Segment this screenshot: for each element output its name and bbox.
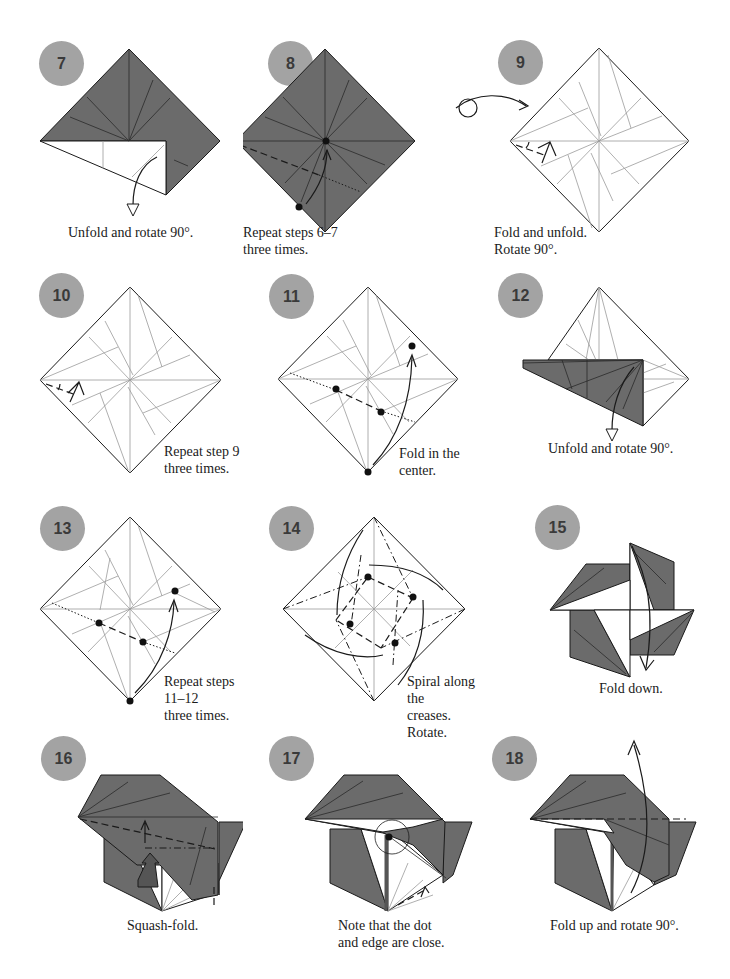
step-14: 14 Spiral along the creases. Rotate. (243, 480, 486, 720)
step-8: 8 Repeat steps 6–7 three times. (243, 0, 486, 240)
step-10: 10 Repeat step 9 three times. (0, 245, 243, 485)
reference-dot (172, 588, 179, 595)
reference-dot (386, 834, 393, 841)
step-12: 12 Unfold and rotate 90°. (486, 245, 729, 485)
reference-dot (409, 343, 416, 350)
step-8-diagram (243, 0, 486, 240)
step-caption: Note that the dot and edge are close. (338, 917, 445, 951)
step-11: 11 Fold in the center. (243, 245, 486, 485)
reference-dot (127, 698, 134, 705)
reference-dot (347, 621, 354, 628)
step-16-diagram (0, 715, 243, 979)
step-7-diagram (0, 0, 243, 240)
reference-dot (365, 469, 372, 476)
step-9-diagram (486, 0, 729, 240)
step-13: 13 Repeat steps 11–12 three times. (0, 480, 243, 720)
reference-dot (410, 594, 417, 601)
step-18: 18 Fold up and rotate 90°. (486, 715, 729, 955)
step-15: 15 Fold down. (486, 480, 729, 720)
step-caption: Repeat step 9 three times. (164, 443, 239, 477)
reference-dot (378, 409, 385, 416)
arrow-head-icon (127, 204, 139, 216)
reference-dot (333, 386, 340, 393)
step-18-diagram (486, 715, 729, 979)
reference-dot (140, 639, 147, 646)
step-9: 9 Fold and unfold. Rotate 90°. (486, 0, 729, 240)
step-caption: Unfold and rotate 90°. (68, 224, 193, 241)
step-caption: Squash-fold. (127, 917, 198, 934)
step-caption: Fold down. (599, 680, 663, 697)
step-16: 16 Squash-fold. (0, 715, 243, 955)
step-7: 7 Unfold and rotate 90°. (0, 0, 243, 240)
reference-dot (323, 138, 330, 145)
reference-dot (96, 620, 103, 627)
step-17: 17 Note that the dot and edge are close. (243, 715, 486, 955)
reference-dot (392, 640, 399, 647)
reference-dot (365, 574, 372, 581)
step-caption: Fold up and rotate 90°. (550, 917, 679, 934)
reference-dot (296, 204, 303, 211)
step-caption: Fold in the center. (399, 445, 486, 479)
step-caption: Unfold and rotate 90°. (548, 440, 673, 457)
